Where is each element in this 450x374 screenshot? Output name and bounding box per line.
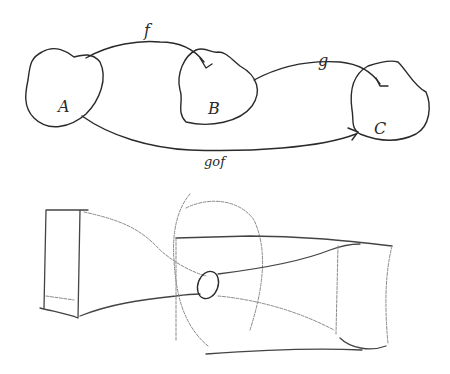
arrowhead-g <box>376 78 388 86</box>
edge-label-gof: gof <box>204 154 227 169</box>
node-label-b: B <box>207 99 220 118</box>
node-label-c: C <box>374 119 386 138</box>
pencil-sketch <box>40 194 392 354</box>
arrow-g <box>254 62 380 84</box>
edge-label-g: g <box>318 51 328 70</box>
arrow-gof <box>82 116 356 150</box>
node-label-a: A <box>56 97 70 116</box>
set-c-blob <box>351 61 429 140</box>
diagram-canvas: A B C f g gof <box>0 0 450 374</box>
edge-label-f: f <box>143 21 153 40</box>
arrowhead-gof <box>348 128 358 140</box>
